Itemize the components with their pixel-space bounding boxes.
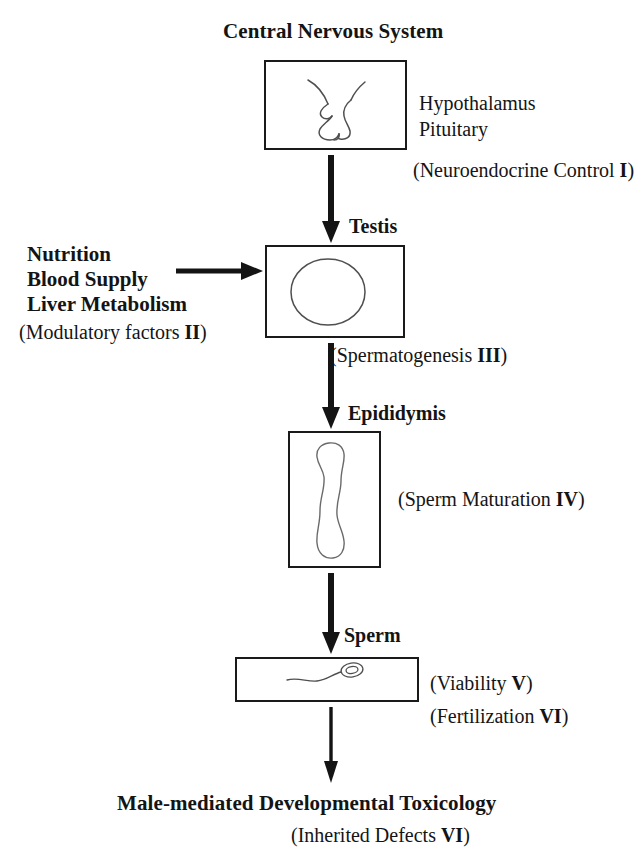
modulatory-line-liver-metabolism: Liver Metabolism	[27, 293, 187, 315]
outcome-caption: (Inherited Defects VI)	[291, 825, 470, 846]
process-numeral: III	[477, 344, 500, 366]
stage-heading-epididymis: Epididymis	[348, 403, 446, 424]
arrow-modulatory-to-testis	[176, 262, 263, 280]
arrow-cns-to-testis	[322, 155, 340, 243]
process-text: (Viability	[430, 672, 512, 694]
epididymis-box	[288, 431, 381, 568]
stage-heading-testis: Testis	[349, 216, 397, 237]
process-label-sperm-maturation: (Sperm Maturation IV)	[398, 489, 585, 510]
process-close: )	[627, 159, 634, 181]
process-close: )	[526, 672, 533, 694]
process-numeral2: VI	[539, 705, 561, 727]
cns-organ-label-pituitary: Pituitary	[419, 119, 488, 140]
outcome-caption-close: )	[463, 824, 470, 846]
process-label-viability: (Viability V)	[430, 673, 533, 694]
process-text: (Spermatogenesis	[330, 344, 477, 366]
process-text: (Sperm Maturation	[398, 488, 556, 510]
modulatory-caption: (Modulatory factors II)	[19, 322, 207, 343]
sperm-box	[235, 657, 419, 702]
modulatory-line-nutrition: Nutrition	[27, 243, 111, 265]
process-text: (Neuroendocrine Control	[413, 159, 620, 181]
process-close: )	[501, 344, 508, 366]
page-title: Central Nervous System	[223, 20, 443, 42]
modulatory-caption-close: )	[200, 321, 207, 343]
arrow-sperm-to-outcome	[324, 707, 338, 783]
process-label-neuroendocrine-control: (Neuroendocrine Control I)	[413, 160, 634, 181]
outcome-caption-text: (Inherited Defects	[291, 824, 441, 846]
process-text2: (Fertilization	[430, 705, 539, 727]
stage-heading-sperm: Sperm	[344, 625, 401, 646]
outcome-title: Male-mediated Developmental Toxicology	[117, 792, 496, 814]
cns-box	[264, 60, 407, 150]
process-numeral: IV	[556, 488, 578, 510]
cns-organ-label-hypothalamus: Hypothalamus	[419, 93, 536, 114]
process-numeral: V	[512, 672, 526, 694]
modulatory-caption-text: (Modulatory factors	[19, 321, 185, 343]
modulatory-line-blood-supply: Blood Supply	[27, 268, 148, 290]
testis-box	[265, 245, 405, 338]
outcome-caption-numeral: VI	[441, 824, 463, 846]
process-label-spermatogenesis: (Spermatogenesis III)	[330, 345, 507, 366]
process-label-fertilization: (Fertilization VI)	[430, 706, 568, 727]
arrow-epididymis-to-sperm	[322, 573, 340, 654]
process-close2: )	[562, 705, 569, 727]
modulatory-caption-numeral: II	[185, 321, 201, 343]
process-close: )	[578, 488, 585, 510]
